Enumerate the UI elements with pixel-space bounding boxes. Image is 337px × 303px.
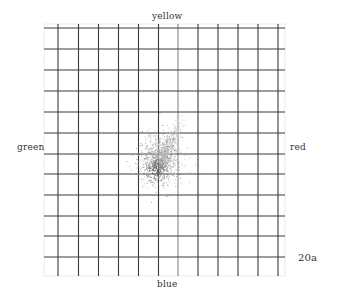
figure-label: 20a	[298, 252, 317, 263]
axis-label-top: yellow	[152, 11, 183, 21]
axis-label-right: red	[290, 142, 306, 152]
axis-label-bottom: blue	[157, 279, 178, 289]
color-scatter-plot	[0, 0, 337, 303]
axis-label-left: green	[17, 142, 45, 152]
